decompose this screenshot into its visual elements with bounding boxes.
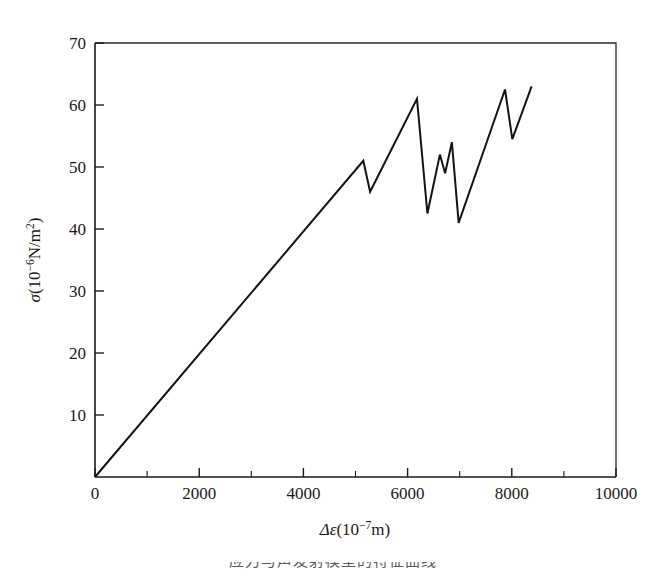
- y-tick-label-10: 10: [69, 406, 86, 425]
- x-tick-label-2000: 2000: [182, 484, 216, 503]
- x-axis-title-unit-close: m): [371, 520, 390, 539]
- x-tick-label-8000: 8000: [495, 484, 529, 503]
- x-axis-title-unit-open: (10: [336, 520, 359, 539]
- x-axis-title: Δε(10−7m): [319, 519, 391, 539]
- y-axis-ticks: [95, 43, 104, 415]
- x-axis-title-exponent: −7: [359, 519, 371, 531]
- x-tick-label-10000: 10000: [595, 484, 638, 503]
- y-axis-title-unit-open: (10: [25, 271, 44, 294]
- figure-root: 70 60 50 40 30 20 10 0 2000 4000 6000 80…: [0, 0, 666, 576]
- y-tick-label-20: 20: [69, 344, 86, 363]
- x-tick-label-0: 0: [91, 484, 100, 503]
- stress-strain-chart: 70 60 50 40 30 20 10 0 2000 4000 6000 80…: [0, 0, 666, 576]
- y-axis-title-unit-mid: N/m: [25, 229, 44, 259]
- y-tick-label-50: 50: [69, 158, 86, 177]
- x-tick-label-6000: 6000: [391, 484, 425, 503]
- y-tick-label-60: 60: [69, 96, 86, 115]
- y-axis-title: σ(10−6N/m2): [24, 218, 44, 303]
- x-axis-minor-ticks: [147, 471, 564, 477]
- x-axis-title-symbol: Δε: [319, 520, 337, 539]
- plot-frame-border: [95, 43, 616, 477]
- svg-text:Δε(10−7m): Δε(10−7m): [319, 519, 391, 539]
- x-tick-label-4000: 4000: [286, 484, 320, 503]
- figure-caption: 应力与声发射模型的特征曲线: [0, 562, 666, 570]
- svg-text:σ(10−6N/m2): σ(10−6N/m2): [24, 218, 44, 303]
- y-axis-title-exponent: −6: [24, 259, 36, 271]
- stress-strain-curve: [95, 86, 532, 477]
- y-tick-labels: 70 60 50 40 30 20 10: [69, 34, 86, 425]
- figure-caption-strip: 应力与声发射模型的特征曲线: [0, 562, 666, 576]
- y-axis-title-unit-close: ): [25, 218, 44, 224]
- y-tick-label-70: 70: [69, 34, 86, 53]
- x-tick-labels: 0 2000 4000 6000 8000 10000: [91, 484, 638, 503]
- y-tick-label-30: 30: [69, 282, 86, 301]
- y-tick-label-40: 40: [69, 220, 86, 239]
